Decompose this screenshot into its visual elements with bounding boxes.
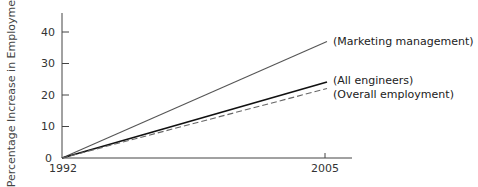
x-tick-label-1992: 1992: [49, 162, 77, 175]
series-overall-employment: [62, 89, 327, 159]
label-marketing-management: (Marketing management): [333, 35, 474, 48]
label-all-engineers: (All engineers): [333, 74, 413, 87]
svg-text:30: 30: [41, 57, 55, 70]
series-all-engineers: [62, 82, 327, 158]
line-chart: Percentage Increase in Employment 0 10 2…: [0, 0, 478, 187]
series-marketing-management: [62, 42, 327, 159]
y-ticks: [62, 32, 69, 127]
label-overall-employment: (Overall employment): [333, 88, 454, 101]
x-tick-label-2005: 2005: [311, 162, 339, 175]
svg-text:10: 10: [41, 120, 55, 133]
y-axis-label: Percentage Increase in Employment: [5, 0, 18, 187]
svg-text:40: 40: [41, 26, 55, 39]
y-tick-labels: 0 10 20 30 40: [41, 26, 55, 165]
svg-text:20: 20: [41, 89, 55, 102]
